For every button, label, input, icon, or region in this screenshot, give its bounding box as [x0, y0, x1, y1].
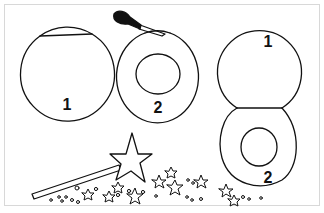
label-stacked-bottom: 2: [264, 170, 273, 186]
label-circle-two: 2: [154, 100, 163, 116]
stacked-circles: [218, 31, 302, 186]
illustration: 1 2 1 2: [0, 0, 324, 213]
label-circle-one: 1: [63, 97, 72, 113]
paintbrush-icon: [114, 11, 165, 36]
label-stacked-top: 1: [264, 34, 273, 50]
